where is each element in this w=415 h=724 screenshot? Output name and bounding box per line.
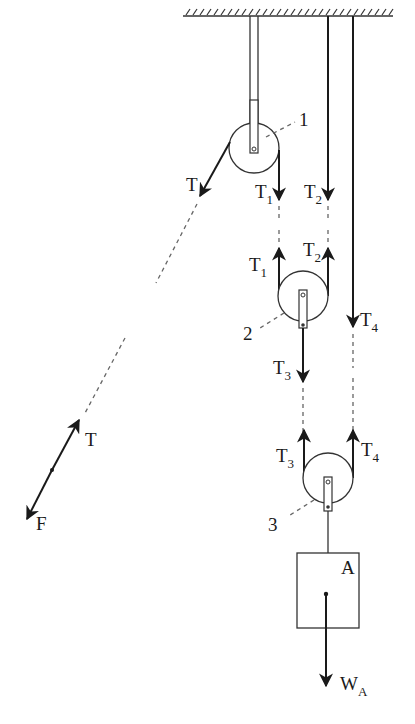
pulley-diagram: 1 T T1 T2 T4 T1 T2 2 T3 T3 T4 — [0, 0, 415, 724]
pulley-1-label: 1 — [299, 109, 309, 130]
label-T2-mid: T2 — [303, 239, 321, 265]
label-T3-low: T3 — [276, 445, 294, 471]
label-T1-mid: T1 — [249, 254, 267, 280]
ceiling — [183, 9, 393, 16]
label-T2-top: T2 — [304, 181, 322, 207]
label-T3-mid: T3 — [273, 357, 291, 383]
block-A: A — [297, 553, 359, 628]
label-F: F — [36, 513, 47, 534]
force-F-arrow — [27, 470, 52, 519]
label-T-low: T — [85, 429, 97, 450]
label-T-top: T — [186, 174, 198, 195]
label-T4-mid: T4 — [360, 309, 379, 335]
block-A-label: A — [341, 557, 355, 578]
label-T1-top: T1 — [255, 181, 273, 207]
pulley-3-label: 3 — [268, 514, 278, 535]
label-WA: WA — [340, 673, 368, 699]
pulley-1: 1 — [229, 100, 309, 173]
free-body-point: T F — [27, 420, 97, 534]
pulley-2-label: 2 — [243, 323, 253, 344]
force-T-top-arrow — [200, 142, 230, 196]
pulley-2: 2 — [243, 271, 328, 344]
force-T-low-arrow — [52, 420, 79, 470]
label-T4-low: T4 — [361, 439, 380, 465]
